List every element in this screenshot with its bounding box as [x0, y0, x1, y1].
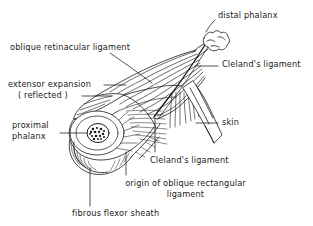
leader-distal-phalanx: [206, 20, 215, 32]
label-origin-oblique-line2: ligament: [103, 189, 268, 200]
label-clelands-ligament-upper: Cleland's ligament: [222, 59, 301, 70]
label-origin-oblique-line1: origin of oblique rectangular: [125, 178, 246, 188]
label-skin: skin: [222, 117, 239, 128]
leader-oblique-retinacular: [110, 53, 152, 83]
label-fibrous-flexor-sheath: fibrous flexor sheath: [72, 208, 159, 219]
anatomy-figure: distal phalanx oblique retinacular ligam…: [0, 0, 313, 226]
label-distal-phalanx: distal phalanx: [218, 10, 278, 21]
label-extensor-expansion: extensor expansion: [8, 79, 91, 90]
label-proximal-phalanx-line2: phalanx: [12, 131, 49, 142]
label-proximal-phalanx: proximal phalanx: [12, 120, 49, 141]
skin-flap: [183, 81, 222, 143]
label-clelands-ligament-lower: Cleland's ligament: [150, 155, 229, 166]
label-origin-oblique-rectangular-ligament: origin of oblique rectangular ligament: [103, 178, 268, 199]
oblique-rectangular-ligament-origin: [132, 124, 160, 159]
dorsal-margin: [118, 85, 182, 111]
label-extensor-expansion-reflected: ( reflected ): [18, 90, 68, 101]
label-oblique-retinacular-ligament: oblique retinacular ligament: [10, 42, 130, 53]
label-proximal-phalanx-line1: proximal: [12, 120, 49, 130]
